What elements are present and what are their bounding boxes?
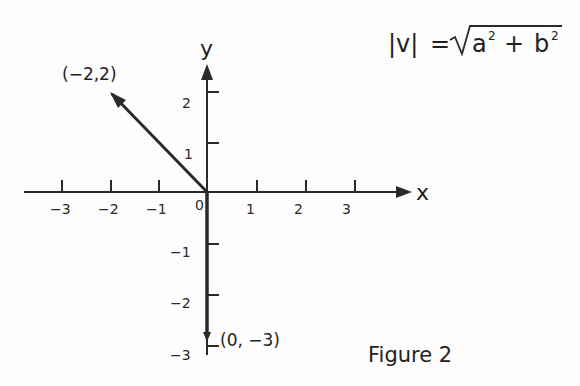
vector-label: (0, −3): [220, 330, 280, 350]
figure-canvas: −3 −2 −1 0 1 2 3 x y 2 1 −1 −2 −3 (−2,2)…: [0, 0, 580, 386]
y-tick-label: −1: [170, 244, 191, 260]
formula-equals: =: [430, 30, 450, 58]
x-tick-label: −3: [50, 201, 71, 217]
x-tick-labels: −3 −2 −1 0 1 2 3: [50, 197, 351, 217]
formula-a: a: [472, 30, 487, 58]
y-tick-label: 2: [182, 95, 191, 111]
x-tick-label: 1: [246, 201, 255, 217]
x-axis-label: x: [416, 180, 429, 205]
x-tick-label: −2: [98, 201, 119, 217]
formula-exponent: 2: [551, 29, 559, 43]
y-tick-labels: 2 1 −1 −2 −3: [170, 95, 193, 363]
figure-caption: Figure 2: [368, 343, 452, 367]
coordinate-plane: −3 −2 −1 0 1 2 3 x y 2 1 −1 −2 −3 (−2,2)…: [0, 0, 580, 386]
formula-exponent: 2: [488, 29, 496, 43]
x-tick-label: 3: [342, 201, 351, 217]
y-tick-label: 1: [184, 146, 193, 162]
origin-label: 0: [195, 197, 204, 213]
formula-plus: +: [504, 30, 524, 58]
x-axis: [24, 180, 412, 198]
vector-arrowhead-icon: [203, 332, 211, 342]
y-axis-arrow-icon: [201, 64, 213, 80]
x-tick-label: 2: [294, 201, 303, 217]
y-tick-label: −3: [170, 347, 191, 363]
magnitude-formula: |v| = a 2 + b 2: [388, 26, 562, 58]
x-tick-label: −1: [146, 201, 167, 217]
formula-b: b: [534, 30, 549, 58]
formula-lhs: |v|: [388, 30, 418, 58]
y-tick-label: −2: [170, 295, 191, 311]
y-axis-label: y: [200, 36, 213, 61]
vector-label: (−2,2): [62, 64, 117, 84]
x-axis-arrow-icon: [396, 186, 412, 198]
vector-neg2-2: [110, 92, 207, 192]
vector-0-neg3: [203, 192, 211, 342]
